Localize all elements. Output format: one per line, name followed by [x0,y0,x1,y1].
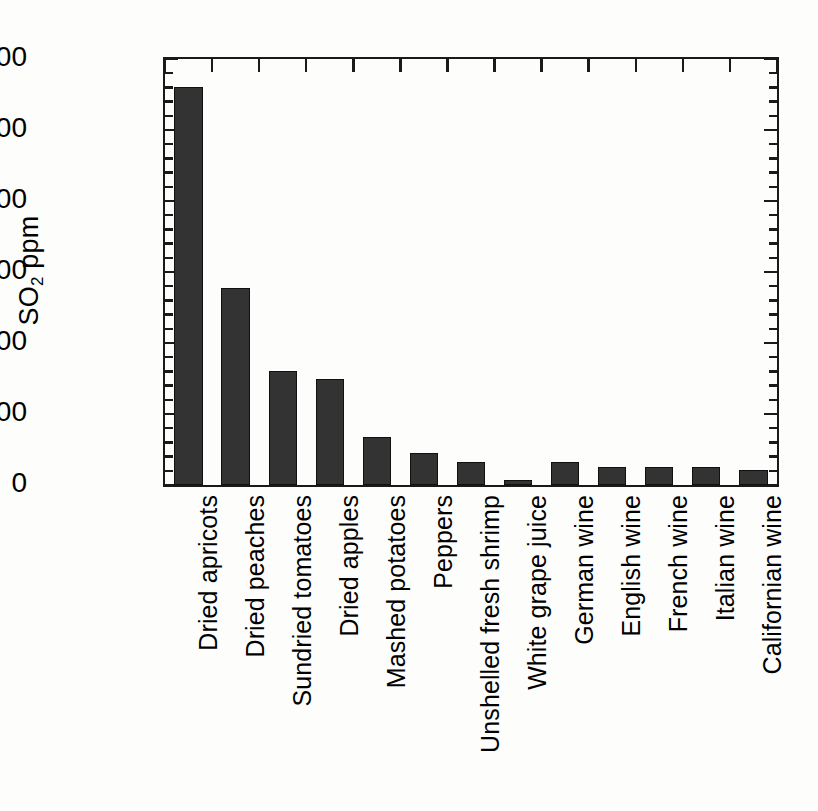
x-axis-tick-label: Sundried tomatoes [290,495,315,707]
bar [410,453,438,485]
bar [269,371,297,485]
y-axis-tick-label-500: 500 [0,398,27,426]
x-axis-tick-label: Dried peaches [243,495,268,658]
y-axis-title-prefix: SO [15,286,45,325]
bar-series [165,59,777,485]
x-axis-tick-label: Italian wine [713,495,738,621]
y-axis-tick-label-1000: 1000 [0,327,27,355]
bar [316,379,344,485]
x-axis-tick-label: Californian wine [760,495,785,674]
plot-area [163,57,779,487]
x-axis-tick-label: Dried apricots [196,495,221,651]
x-axis-tick-label: French wine [666,495,691,632]
y-axis-tick-label-1500: 1500 [0,256,27,284]
bar [645,467,673,485]
x-axis-tick-label: English wine [619,495,644,637]
y-axis-tick-label-0: 0 [11,469,27,497]
x-axis-tick-label: Peppers [431,495,456,589]
y-axis-tick-label-3000: 3000 [0,43,27,71]
x-axis-tick-label: White grape juice [525,495,550,690]
x-axis-tick-label: German wine [572,495,597,645]
bar [692,467,720,485]
bar [221,288,249,485]
bar [504,480,532,485]
x-axis-tick-label: Unshelled fresh shrimp [478,495,503,753]
x-axis-tick-label: Dried apples [337,495,362,637]
bar [551,462,579,485]
bar-chart-figure: SO2 ppm 050010001500200025003000 Dried a… [0,0,818,811]
bar [363,437,391,485]
y-axis-tick-label-2500: 2500 [0,114,27,142]
bar [457,462,485,485]
x-axis-tick-label: Mashed potatoes [384,495,409,688]
bar [739,470,767,485]
y-axis-title-subscript: 2 [29,276,48,286]
bar [598,467,626,485]
y-axis-tick-label-2000: 2000 [0,185,27,213]
bar [174,87,202,485]
